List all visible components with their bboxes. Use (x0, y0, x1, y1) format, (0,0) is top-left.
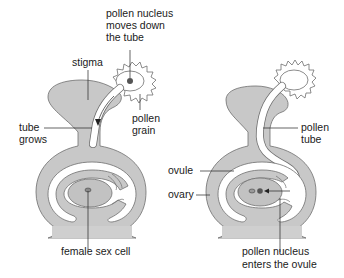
right-pollen-nucleus-icon (257, 188, 263, 194)
right-female-sex-cell-icon (249, 189, 255, 193)
left-pollen-nucleus-icon (127, 78, 133, 84)
label-pollen-grain-2: grain (132, 124, 156, 136)
label-pollen-grain-1: pollen (132, 112, 160, 124)
label-pollen-nucleus-2: moves down (106, 19, 165, 31)
label-pollen-nucleus-1: pollen nucleus (106, 7, 173, 19)
label-pollen-tube-2: tube (301, 133, 322, 145)
right-flower: pollen tube ovule ovary pollen nucleus e… (168, 60, 329, 270)
label-tube-grows-2: grows (19, 133, 47, 145)
label-pollen-nucleus-enters-2: enters the ovule (242, 258, 317, 270)
label-female-sex-cell: female sex cell (61, 245, 130, 257)
label-pollen-tube-1: pollen (301, 121, 329, 133)
right-ovary-base (222, 226, 302, 238)
left-ovary-base (52, 226, 132, 238)
left-flower: pollen nucleus moves down the tube stigm… (19, 7, 173, 257)
label-pollen-nucleus-enters-1: pollen nucleus (242, 245, 309, 257)
label-ovule: ovule (168, 164, 193, 176)
label-stigma: stigma (72, 56, 103, 68)
left-ovule (68, 179, 112, 207)
label-tube-grows-1: tube (19, 121, 40, 133)
left-carpel (36, 80, 146, 238)
pollination-diagram: pollen nucleus moves down the tube stigm… (0, 0, 344, 278)
label-ovary: ovary (168, 188, 194, 200)
label-pollen-nucleus-3: the tube (106, 31, 144, 43)
